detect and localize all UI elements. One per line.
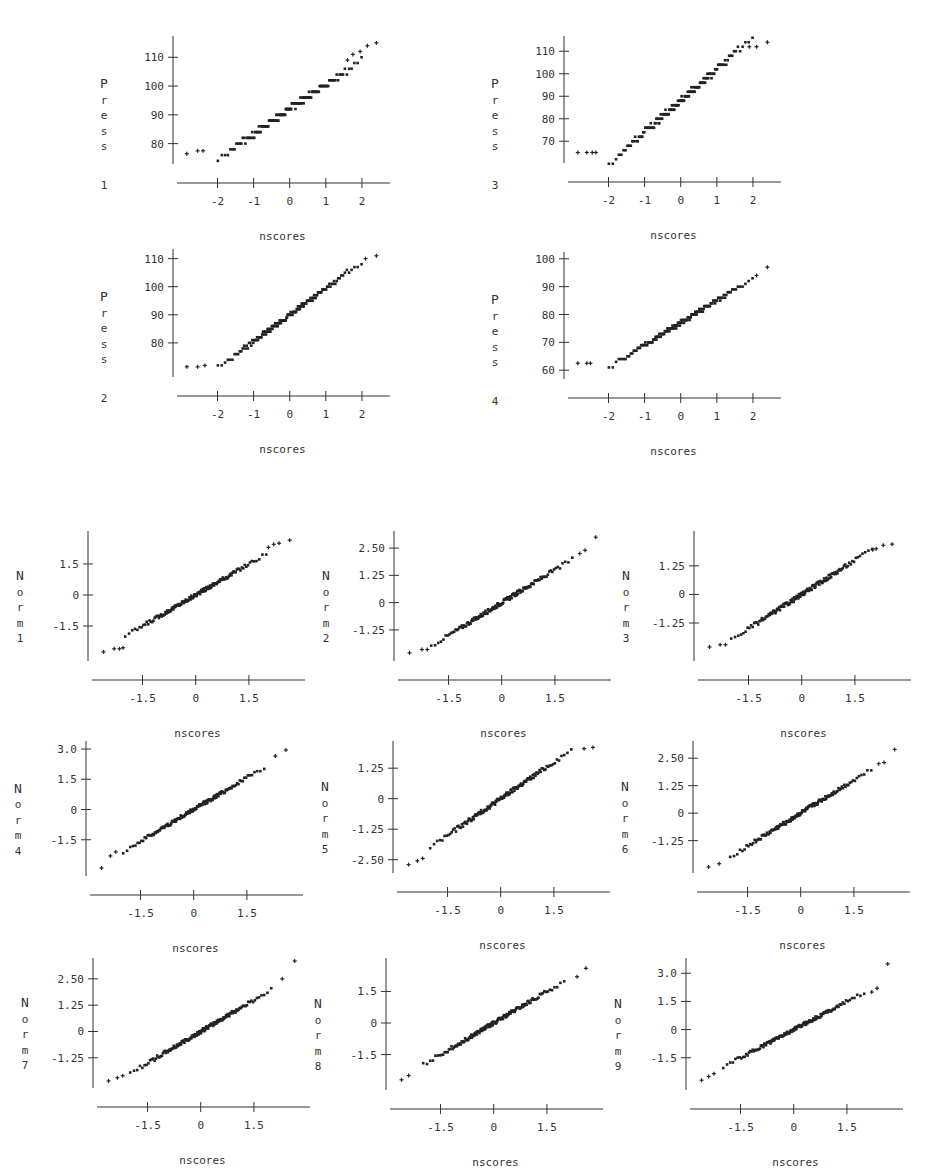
y-axis-label-char: o [622, 797, 629, 810]
y-axis-label-char: N [621, 779, 629, 794]
x-axis-label: nscores [650, 445, 696, 458]
data-points [408, 535, 598, 655]
x-tick-label: 0 [677, 410, 684, 423]
qq-plot-press4: 60708090100-2-1012nscoresPress4 [481, 246, 786, 458]
y-axis-label-char: r [623, 601, 630, 614]
y-axis-label-char: r [622, 812, 629, 825]
x-tick-label: -2 [602, 194, 615, 207]
x-tick-label: 0 [677, 194, 684, 207]
x-axis-label: nscores [650, 229, 696, 242]
x-axis-label: nscores [179, 1154, 225, 1167]
x-tick-label: -1.5 [427, 1121, 454, 1134]
y-axis-label-char: m [615, 1045, 622, 1058]
y-axis-label-char: m [622, 828, 629, 841]
y-axis-label-char: r [492, 94, 499, 107]
y-tick-label: 70 [542, 336, 555, 349]
y-axis-label-char: s [492, 125, 499, 138]
x-tick-label: 2 [359, 195, 366, 208]
x-tick-label: 1.5 [237, 907, 257, 920]
y-tick-label: 90 [151, 109, 164, 122]
y-tick-label: 3.0 [57, 743, 77, 756]
y-axis-label-char: o [623, 586, 630, 599]
x-axis-label: nscores [259, 230, 305, 243]
x-tick-label: 0 [497, 904, 504, 917]
y-tick-label: -1.5 [651, 1052, 678, 1065]
y-axis-label-char: r [323, 601, 330, 614]
y-axis-label-char: o [323, 586, 330, 599]
y-axis-label-char: 1 [101, 179, 108, 192]
qq-plot-norm6: -1.2501.252.50-1.501.5nscoresNorm6 [615, 735, 915, 952]
x-tick-label: -1.5 [734, 904, 761, 917]
x-tick-label: -1 [247, 408, 260, 421]
qq-plot-norm1: -1.501.5-1.501.5nscoresNorm1 [10, 525, 310, 740]
qq-plot-norm2: -1.2501.252.50-1.501.5nscoresNorm2 [316, 525, 616, 740]
x-tick-label: 1.5 [844, 904, 864, 917]
data-points [185, 254, 379, 369]
y-tick-label: 1.25 [659, 560, 686, 573]
y-tick-label: 0 [72, 589, 79, 602]
x-tick-label: -2 [211, 408, 224, 421]
y-tick-label: -1.25 [351, 823, 384, 836]
y-axis-label-char: 1 [17, 632, 24, 645]
y-tick-label: 0 [70, 804, 77, 817]
y-axis-label-char: 3 [623, 632, 630, 645]
x-axis-label: nscores [472, 1156, 518, 1169]
y-axis-label-char: P [491, 292, 499, 307]
y-axis-label-char: m [22, 1044, 29, 1057]
data-points [400, 966, 588, 1081]
y-tick-label: -1.25 [651, 835, 684, 848]
x-tick-label: 1.5 [537, 1121, 557, 1134]
y-tick-label: -1.25 [51, 1052, 84, 1065]
data-points [576, 265, 770, 369]
y-axis-label-char: 3 [492, 179, 499, 192]
y-tick-label: -1.25 [352, 624, 385, 637]
y-axis-label-char: o [17, 586, 24, 599]
y-axis-label-char: 8 [315, 1060, 322, 1073]
y-tick-label: 90 [542, 281, 555, 294]
y-axis-label-char: P [100, 76, 108, 91]
qq-plot-norm9: -1.501.53.0-1.501.5nscoresNorm9 [608, 952, 908, 1169]
y-axis-label-char: m [322, 828, 329, 841]
x-tick-label: 1.5 [845, 692, 865, 705]
x-tick-label: 0 [286, 195, 293, 208]
y-axis-label-char: r [101, 94, 108, 107]
x-tick-label: -2 [211, 195, 224, 208]
y-axis-label-char: s [101, 125, 108, 138]
y-tick-label: 1.25 [359, 569, 386, 582]
x-axis-label: nscores [772, 1156, 818, 1169]
x-tick-label: -1.5 [129, 692, 156, 705]
y-tick-label: 100 [144, 281, 164, 294]
y-tick-label: -1.25 [652, 617, 685, 630]
y-tick-label: 90 [542, 90, 555, 103]
x-tick-label: -1.5 [127, 907, 154, 920]
y-axis-label-char: N [322, 568, 330, 583]
y-axis-label-char: r [22, 1028, 29, 1041]
x-tick-label: -1.5 [435, 692, 462, 705]
y-axis-label-char: m [15, 829, 22, 842]
y-axis-label-char: m [17, 617, 24, 630]
y-tick-label: 2.50 [58, 973, 85, 986]
x-tick-label: 0 [498, 692, 505, 705]
y-tick-label: 1.5 [57, 773, 77, 786]
y-tick-label: 110 [144, 51, 164, 64]
y-axis-label-char: r [315, 1029, 322, 1042]
y-axis-label-char: m [323, 617, 330, 630]
y-axis-label-char: N [321, 779, 329, 794]
x-tick-label: 1.5 [545, 692, 565, 705]
y-axis-label-char: m [315, 1045, 322, 1058]
x-tick-label: -1.5 [727, 1121, 754, 1134]
y-axis-label-char: r [15, 814, 22, 827]
x-tick-label: -1.5 [434, 904, 461, 917]
y-axis-label-char: P [100, 289, 108, 304]
x-tick-label: 0 [192, 692, 199, 705]
y-axis-label-char: s [492, 140, 499, 153]
y-tick-label: 0 [77, 1025, 84, 1038]
y-tick-label: 1.5 [59, 558, 79, 571]
data-points [700, 962, 890, 1082]
y-axis-label-char: r [615, 1029, 622, 1042]
y-tick-label: 80 [151, 337, 164, 350]
data-points [708, 542, 895, 649]
y-axis-label-char: s [101, 140, 108, 153]
y-axis-label-char: e [492, 109, 499, 122]
data-points [102, 538, 292, 654]
